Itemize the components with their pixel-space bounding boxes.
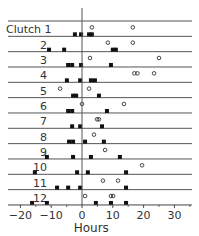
filled-square-marker — [83, 140, 87, 144]
clutch-row: Clutch 1 — [6, 23, 192, 36]
filled-square-marker — [65, 78, 69, 82]
filled-square-marker — [30, 201, 34, 205]
filled-square-marker — [102, 140, 106, 144]
filled-square-marker — [62, 48, 66, 52]
row-label: Clutch 1 — [6, 23, 52, 36]
filled-square-marker — [105, 109, 109, 113]
filled-square-marker — [93, 78, 97, 82]
filled-square-marker — [89, 155, 93, 159]
open-circle-marker — [122, 102, 126, 106]
open-circle-marker — [106, 41, 110, 45]
filled-square-marker — [70, 109, 74, 113]
filled-square-marker — [109, 63, 113, 67]
filled-square-marker — [71, 140, 75, 144]
x-tick-label: −10 — [40, 209, 63, 222]
filled-square-marker — [66, 63, 70, 67]
filled-square-marker — [45, 155, 49, 159]
x-axis: −20−100102030 — [8, 205, 192, 222]
clutch-row: 12 — [30, 192, 128, 205]
open-circle-marker — [83, 194, 87, 198]
filled-square-marker — [33, 170, 37, 174]
filled-square-marker — [97, 94, 101, 98]
filled-square-marker — [75, 170, 79, 174]
filled-square-marker — [66, 109, 70, 113]
row-label: 8 — [40, 131, 47, 144]
open-circle-marker — [131, 41, 135, 45]
filled-square-marker — [73, 32, 77, 36]
filled-square-marker — [114, 48, 118, 52]
x-tick-label: 20 — [137, 209, 151, 222]
filled-square-marker — [66, 186, 70, 190]
row-label: 3 — [40, 54, 47, 67]
filled-square-marker — [118, 155, 122, 159]
filled-square-marker — [70, 124, 74, 128]
clutch-row: 5 — [8, 85, 192, 98]
open-circle-marker — [152, 72, 156, 76]
filled-square-marker — [74, 94, 78, 98]
filled-square-marker — [67, 140, 71, 144]
filled-square-marker — [89, 78, 93, 82]
filled-square-marker — [90, 32, 94, 36]
open-circle-marker — [92, 133, 96, 137]
clutch-row: 4 — [8, 69, 192, 82]
clutch-row: 6 — [8, 100, 192, 113]
filled-square-marker — [109, 201, 113, 205]
x-tick-label: −20 — [9, 209, 32, 222]
filled-square-marker — [124, 201, 128, 205]
row-label: 2 — [40, 39, 47, 52]
filled-square-marker — [55, 186, 59, 190]
filled-square-marker — [94, 201, 98, 205]
clutch-row: 10 — [8, 161, 192, 174]
rows-layer: Clutch 123456789101112 — [6, 21, 192, 205]
filled-square-marker — [124, 186, 128, 190]
filled-square-marker — [124, 170, 128, 174]
x-tick-label: 30 — [167, 209, 181, 222]
clutch-row: 9 — [8, 146, 192, 159]
filled-square-marker — [45, 201, 49, 205]
clutch-row: 8 — [8, 131, 192, 144]
clutch-row: 3 — [8, 54, 192, 67]
open-circle-marker — [157, 56, 161, 60]
open-circle-marker — [116, 179, 120, 183]
clutch-row: 7 — [8, 115, 192, 128]
clutch-row: 11 — [8, 177, 192, 190]
row-label: 11 — [33, 177, 47, 190]
row-label: 5 — [40, 85, 47, 98]
filled-square-marker — [70, 63, 74, 67]
filled-square-marker — [71, 155, 75, 159]
filled-square-marker — [100, 124, 104, 128]
filled-square-marker — [86, 170, 90, 174]
x-axis-label: Hours — [74, 221, 109, 235]
open-circle-marker — [87, 87, 91, 91]
open-circle-marker — [103, 148, 107, 152]
open-circle-marker — [90, 26, 94, 30]
row-label: 4 — [40, 69, 47, 82]
row-label: 6 — [40, 100, 47, 113]
clutch-row: 2 — [8, 39, 192, 52]
row-label: 7 — [40, 115, 47, 128]
filled-square-marker — [47, 48, 51, 52]
open-circle-marker — [58, 87, 62, 91]
open-circle-marker — [88, 56, 92, 60]
open-circle-marker — [101, 179, 105, 183]
open-circle-marker — [140, 164, 144, 168]
open-circle-marker — [131, 26, 135, 30]
clutch-timing-chart: Clutch 123456789101112 −20−100102030 Hou… — [0, 0, 199, 236]
